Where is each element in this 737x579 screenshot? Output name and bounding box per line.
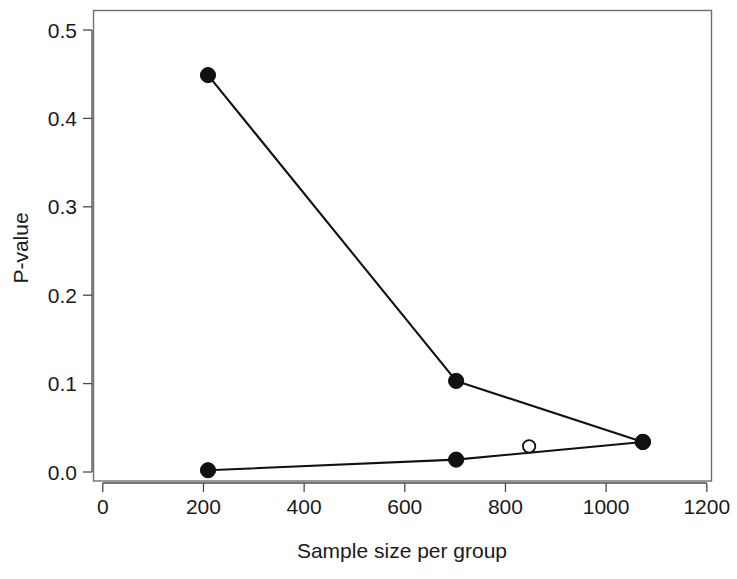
y-tick-label: 0.1 — [48, 372, 77, 395]
data-point — [635, 434, 650, 449]
data-point — [200, 67, 215, 82]
y-tick-label: 0.4 — [48, 107, 78, 130]
x-tick-label: 1200 — [683, 495, 730, 518]
data-point — [449, 452, 464, 467]
y-tick-label: 0.5 — [48, 19, 77, 42]
x-tick-label: 800 — [488, 495, 523, 518]
y-axis-title: P-value — [9, 212, 32, 283]
y-tick-label: 0.0 — [48, 461, 77, 484]
y-tick-label: 0.3 — [48, 195, 77, 218]
x-tick-label: 1000 — [583, 495, 630, 518]
x-tick-label: 400 — [287, 495, 322, 518]
y-tick-label: 0.2 — [48, 284, 77, 307]
x-tick-label: 600 — [387, 495, 422, 518]
series-open-point — [523, 440, 535, 452]
x-tick-label: 0 — [97, 495, 109, 518]
x-axis-title: Sample size per group — [297, 539, 507, 562]
chart-figure: 0.00.10.20.30.40.5 020040060080010001200… — [0, 0, 737, 579]
p-value-vs-sample-size-chart: 0.00.10.20.30.40.5 020040060080010001200… — [0, 0, 737, 579]
data-point — [449, 373, 464, 388]
data-point — [200, 463, 215, 478]
data-point-open — [523, 440, 535, 452]
figure-background — [0, 0, 737, 579]
x-tick-label: 200 — [186, 495, 221, 518]
